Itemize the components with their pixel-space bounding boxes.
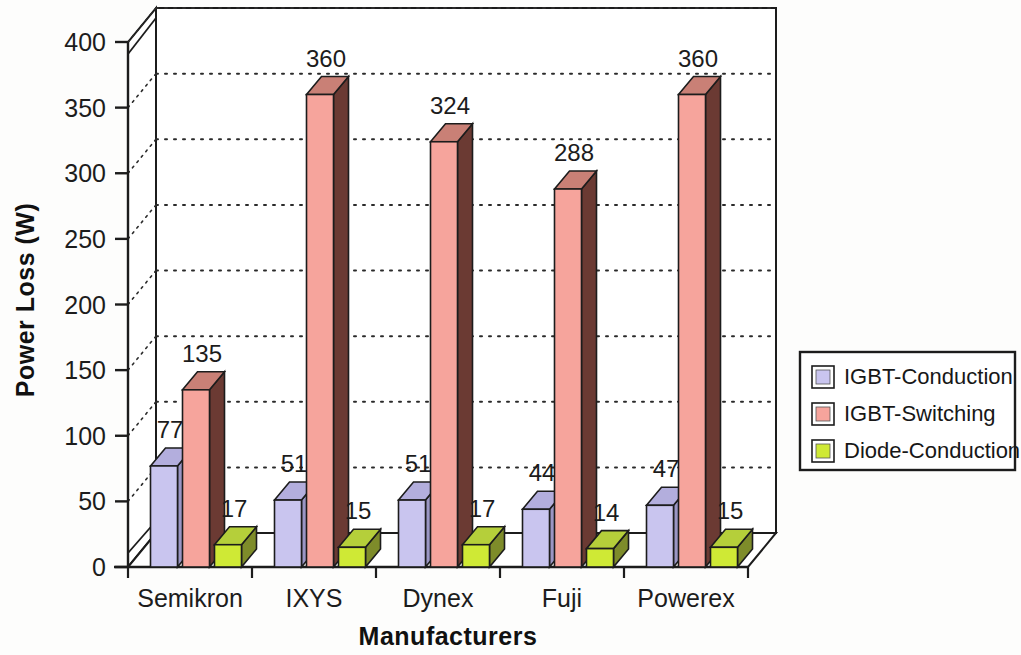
bar-value-label: 360 — [678, 45, 718, 72]
bar-value-label: 360 — [306, 45, 346, 72]
bar-powerex-igbt-switching — [679, 77, 721, 568]
x-axis-category-label: Powerex — [637, 584, 735, 612]
y-axis-tick-label: 150 — [64, 356, 106, 384]
bar-value-label: 15 — [717, 497, 744, 524]
bar-front-face — [555, 189, 582, 567]
bar-front-face — [647, 505, 674, 567]
y-axis-tick-label: 100 — [64, 422, 106, 450]
legend-swatch-3 — [816, 444, 830, 458]
bar-front-face — [183, 390, 210, 567]
bar-value-label: 77 — [157, 416, 184, 443]
bar-front-face — [339, 547, 366, 567]
y-axis-tick-label: 350 — [64, 94, 106, 122]
x-axis-title: Manufacturers — [359, 622, 538, 650]
power-loss-bar-chart: 0501001502002503003504007713517Semikron5… — [0, 0, 1021, 655]
y-axis-tick-label: 0 — [92, 553, 106, 581]
bar-front-face — [307, 95, 334, 568]
bar-value-label: 17 — [469, 495, 496, 522]
x-axis-category-label: Dynex — [403, 584, 474, 612]
bar-value-label: 44 — [529, 459, 556, 486]
chart-canvas: 0501001502002503003504007713517Semikron5… — [0, 0, 1021, 655]
bar-front-face — [523, 509, 550, 567]
bar-ixys-igbt-switching — [307, 77, 349, 568]
bar-front-face — [463, 545, 490, 567]
x-axis-category-label: Fuji — [542, 584, 582, 612]
legend-label-1: IGBT-Conduction — [844, 364, 1013, 389]
x-axis-category-label: Semikron — [137, 584, 243, 612]
bar-value-label: 47 — [653, 455, 680, 482]
y-axis-tick-label: 300 — [64, 159, 106, 187]
bar-fuji-igbt-switching — [555, 171, 597, 567]
bar-semikron-igbt-switching — [183, 372, 225, 567]
bar-value-label: 51 — [405, 450, 432, 477]
bar-value-label: 15 — [345, 497, 372, 524]
bar-front-face — [275, 500, 302, 567]
bar-front-face — [215, 545, 242, 567]
legend-swatch-1 — [816, 370, 830, 384]
legend-label-2: IGBT-Switching — [844, 401, 996, 426]
bar-value-label: 14 — [593, 499, 620, 526]
bar-value-label: 17 — [221, 495, 248, 522]
bar-value-label: 135 — [182, 340, 222, 367]
bar-value-label: 51 — [281, 450, 308, 477]
bar-front-face — [711, 547, 738, 567]
bar-dynex-igbt-switching — [431, 124, 473, 567]
y-axis-title: Power Loss (W) — [11, 203, 39, 398]
bar-front-face — [151, 466, 178, 567]
y-axis-tick-label: 200 — [64, 291, 106, 319]
legend-label-3: Diode-Conduction — [844, 438, 1020, 463]
y-axis-tick-label: 50 — [78, 487, 106, 515]
bar-front-face — [679, 95, 706, 568]
bar-front-face — [587, 549, 614, 567]
bar-front-face — [431, 142, 458, 567]
legend-swatch-2 — [816, 407, 830, 421]
y-axis-tick-label: 250 — [64, 225, 106, 253]
y-axis-tick-label: 400 — [64, 28, 106, 56]
bar-value-label: 288 — [554, 139, 594, 166]
bar-front-face — [399, 500, 426, 567]
bar-value-label: 324 — [430, 92, 470, 119]
x-axis-category-label: IXYS — [286, 584, 343, 612]
bar-side-face — [334, 77, 349, 568]
bar-side-face — [706, 77, 721, 568]
